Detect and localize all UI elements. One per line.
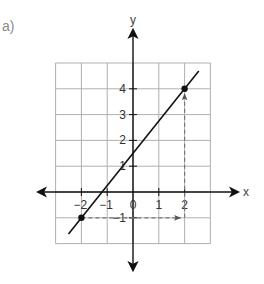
x-tick-label: 0 [130, 198, 137, 212]
x-tick-label: −1 [99, 198, 113, 212]
y-tick-label: 3 [119, 108, 126, 122]
coordinate-plane: xy −2−10124321−1 [0, 0, 264, 284]
y-axis-label: y [130, 13, 136, 27]
y-tick-label: 4 [119, 82, 126, 96]
plotted-point [181, 86, 187, 92]
x-tick-label: 1 [155, 198, 162, 212]
x-axis-label: x [243, 185, 249, 199]
tick-labels: −2−10124321−1 [74, 82, 189, 225]
plotted-point [78, 215, 84, 221]
y-tick-label: 2 [119, 133, 126, 147]
x-tick-label: −2 [74, 198, 88, 212]
